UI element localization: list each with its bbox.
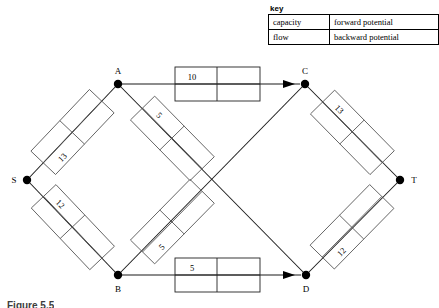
edge-box-b-d: 5: [175, 258, 260, 292]
edge-box-c-t: 13: [310, 90, 394, 174]
graph-nodes: [23, 80, 404, 279]
edge-arrowheads: [283, 80, 295, 279]
node-c[interactable]: [301, 80, 309, 88]
edge-capacity-s-a: 13: [56, 151, 69, 164]
graph-node-labels: S A B C D T: [11, 66, 417, 294]
edge-line-d-t: [306, 180, 400, 275]
edge-box-a-c: 10: [175, 67, 260, 101]
edge-capacity-a-d: 5: [154, 110, 164, 120]
node-a[interactable]: [114, 80, 122, 88]
node-b[interactable]: [114, 271, 122, 279]
arrowhead-a-c: [283, 80, 295, 88]
node-t[interactable]: [396, 176, 404, 184]
edge-capacity-a-c: 10: [188, 72, 197, 82]
node-label-d: D: [303, 284, 310, 294]
edge-lines: [27, 84, 400, 275]
figure-caption: Figure 5.5: [7, 300, 54, 308]
edge-box-b-c: 5: [130, 179, 214, 263]
edge-box-s-a: 13: [31, 89, 114, 174]
edge-box-d-t: 12: [310, 185, 394, 269]
arrowhead-b-d: [283, 271, 295, 279]
edge-line-s-b: [27, 180, 118, 275]
edge-box-a-d: 5: [130, 96, 214, 180]
node-label-t: T: [411, 175, 417, 185]
edge-capacity-b-c: 5: [157, 242, 167, 252]
node-d[interactable]: [302, 271, 310, 279]
edge-capacity-d-t: 12: [335, 245, 348, 258]
edge-capacity-s-b: 12: [54, 197, 67, 210]
node-label-c: C: [302, 66, 308, 76]
node-label-a: A: [115, 66, 122, 76]
node-label-s: S: [11, 175, 16, 185]
edge-capacity-b-d: 5: [190, 263, 194, 273]
node-s[interactable]: [23, 176, 31, 184]
node-label-b: B: [115, 284, 121, 294]
